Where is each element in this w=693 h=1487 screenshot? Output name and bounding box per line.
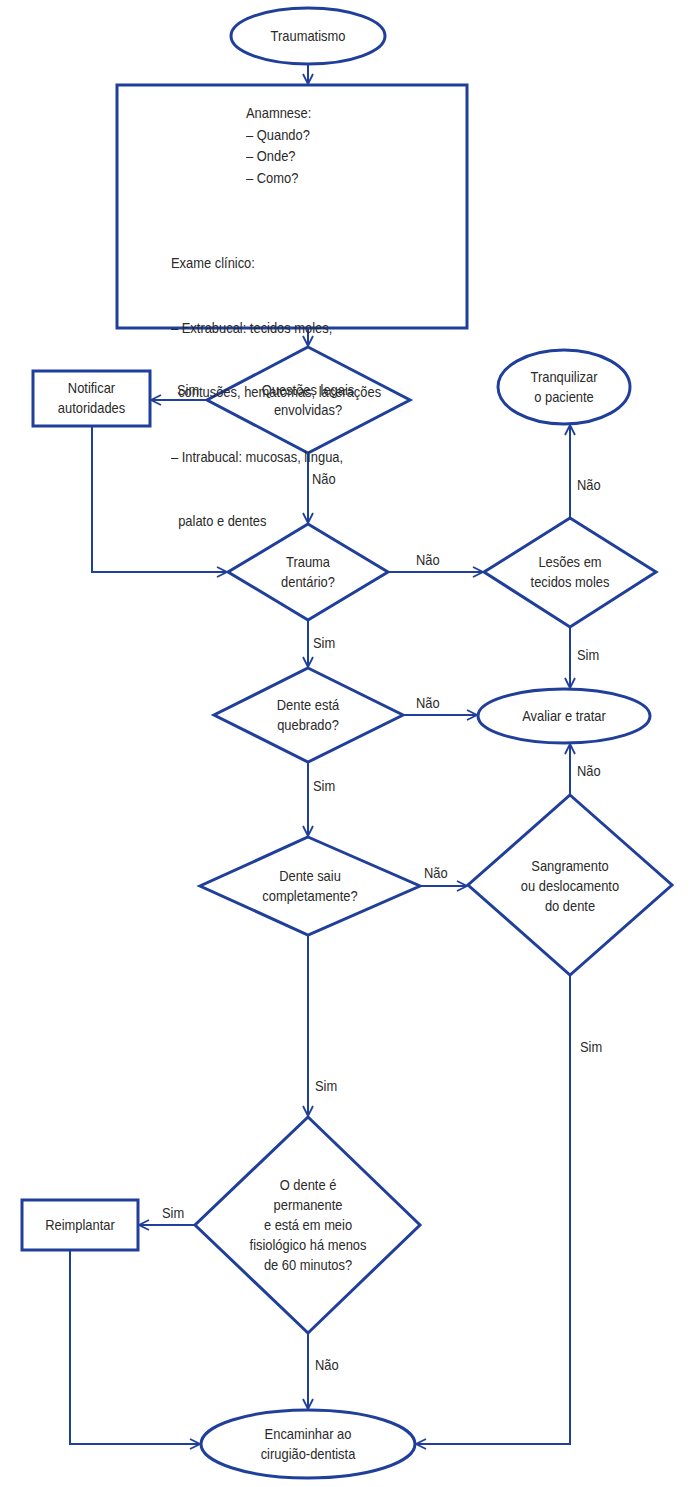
exame-item: – Extrabucal: tecidos moles, bbox=[171, 317, 381, 339]
evaluate-text: Avaliar e tratar bbox=[522, 706, 606, 726]
node-permanent-label: O dente é permanente e está em meio fisi… bbox=[226, 1170, 389, 1280]
edge-label-broken-nao: Não bbox=[416, 694, 440, 712]
start-text: Traumatismo bbox=[271, 26, 346, 46]
edge-label-bleeding-sim: Sim bbox=[580, 1038, 602, 1056]
refer-line: cirugião-dentista bbox=[261, 1444, 356, 1464]
permanent-line: de 60 minutos? bbox=[264, 1255, 352, 1275]
permanent-line: O dente é bbox=[280, 1175, 337, 1195]
broken-line: quebrado? bbox=[277, 715, 339, 735]
notify-line: Notificar bbox=[68, 378, 115, 398]
anamnese-item: – Quando? bbox=[246, 124, 311, 146]
node-bleeding-label: Sangramento ou deslocamento do dente bbox=[495, 853, 645, 919]
anamnese-item: – Onde? bbox=[246, 145, 311, 167]
legal-line: envolvidas? bbox=[274, 400, 342, 420]
node-avulsed-label: Dente saiu completamente? bbox=[228, 864, 391, 908]
node-broken-label: Dente está quebrado? bbox=[239, 693, 377, 737]
calm-line: Tranquilizar bbox=[531, 367, 598, 387]
replant-text: Reimplantar bbox=[45, 1215, 115, 1235]
edge-label-soft-sim: Sim bbox=[577, 646, 599, 664]
soft-line: tecidos moles bbox=[531, 572, 610, 592]
node-start-label: Traumatismo bbox=[242, 18, 374, 54]
exame-item: – Intrabucal: mucosas, língua, bbox=[171, 446, 381, 468]
soft-line: Lesões em bbox=[538, 552, 601, 572]
permanent-line: fisiológico há menos bbox=[250, 1235, 367, 1255]
avulsed-line: completamente? bbox=[262, 886, 357, 906]
node-refer-label: Encaminhar ao cirugião-dentista bbox=[217, 1422, 399, 1466]
dental-line: dentário? bbox=[281, 572, 335, 592]
edge-label-legal-sim: Sim bbox=[177, 381, 199, 399]
edge-label-dental-sim: Sim bbox=[313, 634, 335, 652]
calm-line: o paciente bbox=[534, 387, 594, 407]
refer-line: Encaminhar ao bbox=[265, 1424, 352, 1444]
edge-replant-refer bbox=[70, 1250, 200, 1444]
edge-label-avulsed-sim: Sim bbox=[315, 1077, 337, 1095]
broken-line: Dente está bbox=[277, 695, 339, 715]
edge-label-permanent-sim: Sim bbox=[162, 1204, 184, 1222]
anamnese-item: – Como? bbox=[246, 167, 311, 189]
node-evaluate-label: Avaliar e tratar bbox=[490, 698, 638, 734]
permanent-line: e está em meio bbox=[264, 1215, 352, 1235]
anamnese-title: Anamnese: bbox=[246, 102, 311, 124]
exame-item: palato e dentes bbox=[171, 510, 381, 532]
node-notify-label: Notificar autoridades bbox=[41, 376, 142, 420]
edge-label-legal-nao: Não bbox=[312, 470, 336, 488]
edge-label-bleeding-nao: Não bbox=[577, 762, 601, 780]
edge-label-dental-nao: Não bbox=[416, 551, 440, 569]
edge-label-avulsed-nao: Não bbox=[424, 864, 448, 882]
bleeding-line: ou deslocamento bbox=[521, 876, 619, 896]
avulsed-line: Dente saiu bbox=[279, 866, 341, 886]
edge-label-broken-sim: Sim bbox=[313, 777, 335, 795]
node-calm-label: Tranquilizar o paciente bbox=[507, 365, 621, 409]
bleeding-line: do dente bbox=[545, 896, 595, 916]
edge-bleeding-refer bbox=[416, 975, 570, 1444]
legal-line: Questões legais bbox=[262, 380, 355, 400]
dental-line: Trauma bbox=[286, 552, 330, 572]
notify-line: autoridades bbox=[58, 398, 125, 418]
node-legal-label: Questões legais envolvidas? bbox=[231, 378, 386, 422]
exame-title: Exame clínico: bbox=[171, 252, 381, 274]
bleeding-line: Sangramento bbox=[531, 856, 608, 876]
permanent-line: permanente bbox=[274, 1195, 343, 1215]
edge-label-soft-nao: Não bbox=[577, 476, 601, 494]
edge-label-permanent-nao: Não bbox=[315, 1356, 339, 1374]
node-soft-label: Lesões em tecidos moles bbox=[505, 550, 636, 594]
node-exam-anamnese: Anamnese: – Quando? – Onde? – Como? bbox=[246, 102, 311, 188]
node-dental-label: Trauma dentário? bbox=[248, 550, 368, 594]
node-replant-label: Reimplantar bbox=[30, 1207, 130, 1243]
